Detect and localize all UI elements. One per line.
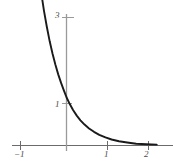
- exponential-decay-chart: −1 1 2 1 3: [0, 0, 173, 167]
- y-axis-tick-label-three: 3: [55, 11, 60, 20]
- x-axis-tick-label-one: 1: [104, 150, 109, 159]
- x-axis-tick-label-two: 2: [144, 150, 149, 159]
- plot-canvas: [0, 0, 173, 167]
- x-axis-tick-label-neg-one: −1: [14, 150, 25, 159]
- exponential-curve: [41, 0, 157, 145]
- y-axis-tick-label-one: 1: [55, 100, 60, 109]
